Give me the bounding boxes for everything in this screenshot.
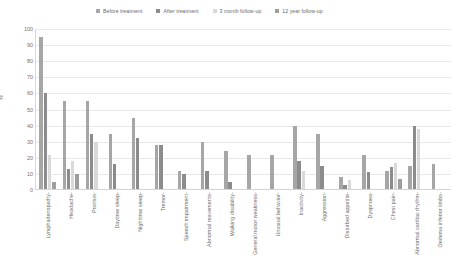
bar[interactable] (417, 129, 421, 190)
legend-label: 3 month follow-up (220, 8, 262, 14)
bar[interactable] (90, 134, 94, 190)
bar[interactable] (201, 142, 205, 190)
bar[interactable] (63, 101, 67, 190)
bar[interactable] (408, 166, 412, 190)
bar-chart: Before treatmentAfter treatment3 month f… (0, 0, 453, 278)
y-tick-label: 60 (3, 90, 33, 96)
legend-swatch-icon (275, 9, 279, 13)
x-label-cell: Abnormal cardiac rhythm (405, 192, 428, 278)
x-label-cell: Walking disability (221, 192, 244, 278)
bar[interactable] (67, 169, 71, 190)
x-tick-label: Daytime sleep (114, 194, 120, 229)
x-label-cell: Nighttime sleep (128, 192, 151, 278)
bar[interactable] (109, 134, 113, 190)
bar[interactable] (390, 167, 394, 190)
bar[interactable] (86, 101, 90, 190)
bar[interactable] (293, 126, 297, 190)
bar[interactable] (224, 151, 228, 190)
x-tick-label: Inactivity (298, 194, 304, 215)
bar-group (290, 29, 313, 190)
bar[interactable] (302, 171, 306, 190)
bar-group (267, 29, 290, 190)
bar[interactable] (394, 163, 398, 190)
bar[interactable] (205, 171, 209, 190)
bar-groups (36, 29, 451, 190)
x-label-cell: General motor weakness (244, 192, 267, 278)
x-label-cell: Speech impairment (174, 192, 197, 278)
x-label-cell: Unusual behavior (267, 192, 290, 278)
x-tick-label: Tremor (160, 194, 166, 211)
bar[interactable] (48, 155, 52, 190)
y-tick-label: 80 (3, 58, 33, 64)
bar[interactable] (385, 171, 389, 190)
bar[interactable] (270, 155, 274, 190)
legend-label: After treatment (163, 8, 198, 14)
bar-group (359, 29, 382, 190)
bar[interactable] (136, 138, 140, 190)
x-tick-label: Aggression (321, 194, 327, 221)
bar[interactable] (44, 93, 48, 190)
bar-group (382, 29, 405, 190)
bar[interactable] (155, 145, 159, 190)
bar[interactable] (113, 164, 117, 190)
x-tick-label: Lymphadenopathy (45, 194, 51, 239)
bar-group (128, 29, 151, 190)
bar[interactable] (247, 155, 251, 190)
x-label-cell: Headache (59, 192, 82, 278)
chart-legend: Before treatmentAfter treatment3 month f… (96, 5, 396, 17)
bar[interactable] (132, 118, 136, 190)
bar[interactable] (320, 166, 324, 190)
x-tick-label: Unusual behavior (275, 194, 281, 237)
x-tick-label: Nighttime sleep (137, 194, 143, 232)
y-tick-label: 100 (3, 26, 33, 32)
y-tick-label: 20 (3, 155, 33, 161)
plot-area (36, 29, 451, 190)
y-tick-label: 10 (3, 171, 33, 177)
bar[interactable] (75, 174, 79, 190)
bar[interactable] (367, 172, 371, 190)
bar[interactable] (94, 142, 98, 190)
bar[interactable] (182, 174, 186, 190)
bar[interactable] (159, 145, 163, 190)
x-tick-label: Abnormal movements (206, 194, 212, 247)
bar-group (336, 29, 359, 190)
x-tick-label: General motor weakness (252, 194, 258, 255)
x-label-cell: Abnormal movements (197, 192, 220, 278)
x-tick-label: Chest pain (390, 194, 396, 220)
y-axis-ticks: 0102030405060708090100 (0, 29, 33, 190)
y-tick-label: 30 (3, 139, 33, 145)
bar-group (82, 29, 105, 190)
x-tick-label: Pruritus (91, 194, 97, 213)
bar[interactable] (432, 164, 436, 190)
x-tick-label: Walking disability (229, 194, 235, 236)
bar-group (36, 29, 59, 190)
bar-group (405, 29, 428, 190)
x-label-cell: Daytime sleep (105, 192, 128, 278)
bar[interactable] (362, 155, 366, 190)
x-label-cell: Oedema inferior limbs (428, 192, 451, 278)
x-axis-line (36, 189, 451, 190)
y-tick-label: 90 (3, 42, 33, 48)
bar[interactable] (178, 171, 182, 190)
x-label-cell: Dyspnoea (359, 192, 382, 278)
x-label-cell: Chest pain (382, 192, 405, 278)
legend-item-1[interactable]: After treatment (156, 8, 198, 14)
legend-swatch-icon (156, 9, 160, 13)
bar-group (244, 29, 267, 190)
x-tick-label: Dyspnoea (367, 194, 373, 219)
bar[interactable] (39, 37, 43, 190)
legend-item-2[interactable]: 3 month follow-up (213, 8, 262, 14)
bar[interactable] (413, 126, 417, 190)
bar[interactable] (316, 134, 320, 190)
bar-group (428, 29, 451, 190)
x-tick-label: Oedema inferior limbs (437, 194, 443, 248)
x-label-cell: Aggression (313, 192, 336, 278)
bar-group (197, 29, 220, 190)
legend-item-3[interactable]: 12 year follow-up (275, 8, 322, 14)
legend-label: Before treatment (103, 8, 142, 14)
legend-item-0[interactable]: Before treatment (96, 8, 142, 14)
y-tick-label: 40 (3, 123, 33, 129)
bar[interactable] (297, 161, 301, 190)
bar-group (59, 29, 82, 190)
bar[interactable] (71, 161, 75, 190)
